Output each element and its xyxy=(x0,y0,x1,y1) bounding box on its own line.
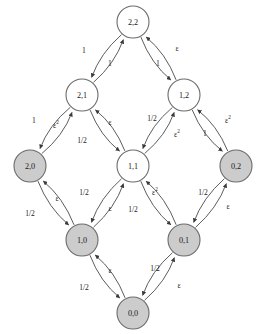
edge-label: 1/2 xyxy=(79,188,89,197)
graph-edge xyxy=(38,181,69,225)
edge-label: 1/2 xyxy=(79,283,89,292)
graph-node-0-0[interactable]: 0,0 xyxy=(117,297,149,329)
graph-edge xyxy=(92,35,122,78)
edge-label: 1 xyxy=(82,46,86,55)
edge-label: 1/2 xyxy=(150,264,160,273)
node-label: 0,1 xyxy=(179,236,189,245)
graph-edge xyxy=(95,110,124,151)
graph-edge xyxy=(92,179,122,223)
edge-label: ε xyxy=(226,202,229,211)
edge-label: 1/2 xyxy=(25,209,35,218)
node-label: 2,2 xyxy=(128,18,138,27)
edge-label: 1/2 xyxy=(128,205,138,214)
graph-node-1-1[interactable]: 1,1 xyxy=(117,150,149,182)
graph-edge xyxy=(192,110,222,151)
graph-node-0-1[interactable]: 0,1 xyxy=(168,224,200,256)
graph-node-1-2[interactable]: 1,2 xyxy=(168,79,200,111)
node-label: 1,1 xyxy=(128,162,138,171)
nodes-layer: 2,22,11,22,01,10,21,00,10,0 xyxy=(14,6,252,329)
edge-label: ε2 xyxy=(174,128,180,138)
edge-label: ε2 xyxy=(225,114,231,124)
edge-label: ε2 xyxy=(53,119,59,129)
graph-edge xyxy=(146,181,176,225)
edge-label: ε xyxy=(108,266,111,275)
graph-edge xyxy=(143,253,173,296)
graph-node-1-0[interactable]: 1,0 xyxy=(66,224,98,256)
graph-edge xyxy=(43,181,74,225)
edge-label: ε xyxy=(55,194,58,203)
node-label: 2,0 xyxy=(25,162,35,171)
edge-label: 1 xyxy=(156,59,160,68)
graph-node-2-1[interactable]: 2,1 xyxy=(66,79,98,111)
edge-label: ε xyxy=(175,44,178,53)
edge-label: 1/2 xyxy=(198,188,208,197)
node-label: 1,2 xyxy=(179,91,189,100)
edge-label: ε xyxy=(177,281,180,290)
edge-label: 1/2 xyxy=(147,114,157,123)
edge-label: 1/2 xyxy=(77,136,87,145)
node-label: 1,0 xyxy=(77,236,87,245)
edge-label: 1 xyxy=(108,59,112,68)
diagram-canvas: 2,22,11,22,01,10,21,00,10,0 11ε11ε2ε1/21… xyxy=(0,0,267,334)
edge-label: 1 xyxy=(32,116,36,125)
node-label: 0,0 xyxy=(128,309,138,318)
graph-edge xyxy=(90,255,120,298)
graph-node-2-2[interactable]: 2,2 xyxy=(117,6,149,38)
node-label: 0,2 xyxy=(231,162,241,171)
graph-node-2-0[interactable]: 2,0 xyxy=(14,150,46,182)
graph-edge xyxy=(95,255,125,298)
edge-label: 1 xyxy=(203,129,207,138)
graph-edge xyxy=(146,37,176,80)
node-label: 2,1 xyxy=(77,91,87,100)
graph-node-0-2[interactable]: 0,2 xyxy=(220,150,252,182)
graph-edge xyxy=(90,110,119,151)
edge-label: ε xyxy=(108,204,111,213)
edge-label: ε2 xyxy=(152,186,158,196)
edge-label: ε xyxy=(108,118,111,127)
graph-edge xyxy=(194,179,225,223)
state-transition-graph: 2,22,11,22,01,10,21,00,10,0 11ε11ε2ε1/21… xyxy=(0,0,267,334)
